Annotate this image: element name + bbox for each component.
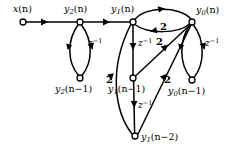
edge-y0n1-to-y0n-return	[178, 25, 190, 78]
node-y1-n-1[interactable]	[130, 75, 136, 81]
gain-label-top: 2	[160, 22, 167, 32]
node-x-n[interactable]	[20, 19, 26, 25]
node-label-y0-n-1: y0(n−1)	[168, 86, 205, 97]
edge-y0n-to-y0n1-delay	[194, 25, 206, 78]
node-label-y1-n-2: y1(n−2)	[141, 132, 178, 143]
signal-flow-graph-figure: x(n) y2(n) y1(n) y0(n) y2(n−1) y1(n−1) y…	[0, 0, 238, 151]
signal-flow-graph-canvas	[0, 0, 238, 151]
node-label-y1-n-1: y1(n−1)	[108, 84, 145, 95]
edge-y2n-to-y2n1-delay	[82, 25, 94, 76]
node-label-x-n: x(n)	[13, 4, 32, 15]
delay-label-left-loop: z−1	[88, 38, 102, 48]
delay-label-lower: z−1	[138, 100, 152, 110]
delay-label-right-loop: z−1	[205, 38, 219, 48]
node-y0-n[interactable]	[189, 19, 195, 25]
node-y2-n[interactable]	[77, 19, 83, 25]
edge-x-to-y2	[26, 19, 77, 26]
gain-label-mid: 2	[156, 37, 163, 47]
edge-y1n-to-y0n-top-arc	[135, 6, 191, 19]
delay-label-center: z−1	[138, 38, 152, 48]
node-y2-n-1[interactable]	[77, 75, 83, 81]
node-label-y2-n: y2(n)	[64, 4, 87, 15]
edge-y2n1-to-y2n-return	[66, 25, 78, 76]
node-label-y2-n-1: y2(n−1)	[55, 84, 92, 95]
edge-y2-to-y1	[83, 19, 130, 26]
node-y1-n-2[interactable]	[132, 133, 138, 139]
node-label-y0-n: y0(n)	[196, 5, 219, 16]
node-y1-n[interactable]	[130, 19, 136, 25]
node-label-y1-n: y1(n)	[111, 4, 134, 15]
edge-y1n-to-y1n1-delay	[130, 25, 137, 75]
node-y0-n-1[interactable]	[189, 77, 195, 83]
gain-label-left: 2	[106, 75, 113, 85]
gain-label-right: 2	[164, 75, 171, 85]
